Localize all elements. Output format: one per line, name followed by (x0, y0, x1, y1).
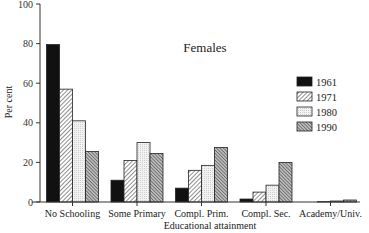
bar-1971 (60, 89, 73, 202)
y-tick-label: 100 (18, 0, 33, 10)
y-tick-label: 80 (23, 38, 33, 49)
legend-swatch-1971 (297, 92, 312, 101)
bar-1971 (124, 160, 137, 202)
legend-label-1961: 1961 (316, 77, 337, 88)
x-category-label: Compl. Sec. (241, 208, 290, 219)
bar-1980 (202, 165, 215, 202)
legend-swatch-1980 (297, 107, 312, 116)
x-category-label: No Schooling (45, 208, 100, 219)
legend-label-1971: 1971 (316, 92, 337, 103)
x-category-label: Academy/Univ. (299, 208, 362, 219)
bar-1961 (111, 180, 124, 202)
chart-title: Females (183, 40, 226, 55)
bar-chart: 020406080100 No SchoolingSome PrimaryCom… (0, 0, 369, 233)
y-tick-label: 20 (23, 157, 33, 168)
bar-1990 (150, 153, 163, 202)
y-tick-label: 0 (28, 197, 33, 208)
bar-1990 (215, 148, 228, 202)
y-axis-title: Per cent (3, 86, 14, 119)
bar-1980 (266, 185, 279, 202)
legend: 1961197119801990 (297, 77, 337, 133)
legend-label-1980: 1980 (316, 107, 337, 118)
bar-1990 (86, 152, 99, 202)
bar-1980 (73, 121, 86, 202)
y-tick-label: 40 (23, 117, 33, 128)
x-category-label: Some Primary (108, 208, 166, 219)
bar-1961 (47, 45, 60, 202)
legend-swatch-1990 (297, 122, 312, 131)
bar-1980 (137, 143, 150, 202)
x-axis-title: Educational attainment (164, 220, 257, 231)
bar-1971 (189, 170, 202, 202)
bar-1971 (253, 192, 266, 202)
y-axis-ticks: 020406080100 (18, 0, 40, 208)
x-axis-categories: No SchoolingSome PrimaryCompl. Prim.Comp… (45, 202, 362, 219)
legend-swatch-1961 (297, 77, 312, 86)
bar-1990 (279, 162, 292, 202)
y-tick-label: 60 (23, 78, 33, 89)
legend-label-1990: 1990 (316, 122, 337, 133)
bar-1961 (176, 188, 189, 202)
x-category-label: Compl. Prim. (174, 208, 228, 219)
